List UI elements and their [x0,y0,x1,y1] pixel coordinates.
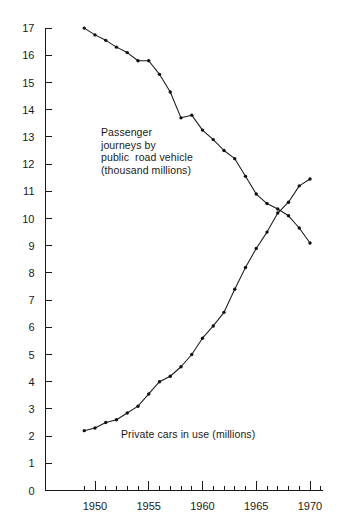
data-point-marker [169,90,172,93]
data-point-marker [265,202,268,205]
data-point-marker [233,288,236,291]
data-point-marker [265,230,268,233]
data-point-marker [147,59,150,62]
data-point-marker [158,380,161,383]
data-point-marker [212,138,215,141]
data-point-marker [83,26,86,29]
data-point-marker [115,418,118,421]
data-point-marker [287,200,290,203]
y-tick-label: 8 [28,267,34,279]
data-point-marker [190,113,193,116]
x-axis: 19501955196019651970 [46,481,323,512]
y-tick-label: 17 [22,22,34,34]
data-point-marker [287,214,290,217]
data-point-marker [190,353,193,356]
x-tick-label: 1960 [190,500,214,512]
y-tick-label: 4 [28,376,34,388]
data-point-marker [222,149,225,152]
y-tick-label: 16 [22,49,34,61]
data-point-marker [244,266,247,269]
y-tick-label: 15 [22,77,34,89]
series-line-private-cars [84,179,310,431]
x-axis-tick-labels: 19501955196019651970 [83,500,322,512]
data-point-marker [244,175,247,178]
data-series-layer [83,26,312,432]
y-tick-label: 10 [22,213,34,225]
y-tick-label: 6 [28,321,34,333]
y-tick-label: 14 [22,104,34,116]
x-tick-label: 1950 [83,500,107,512]
y-tick-label: 2 [28,430,34,442]
data-point-marker [276,207,279,210]
series-private-cars [83,177,312,432]
data-point-marker [126,411,129,414]
line-chart: 01234567891011121314151617 1950195519601… [0,0,354,528]
data-point-marker [179,116,182,119]
data-point-marker [136,404,139,407]
data-point-marker [308,241,311,244]
x-tick-label: 1965 [244,500,268,512]
series-label-passenger-journeys: Passenger journeys by public road vehicl… [101,126,193,176]
data-point-marker [308,177,311,180]
x-tick-label: 1970 [298,500,322,512]
y-tick-label: 0 [28,485,34,497]
data-point-marker [255,247,258,250]
data-point-marker [298,184,301,187]
data-point-marker [93,33,96,36]
data-point-marker [147,392,150,395]
y-tick-label: 12 [22,158,34,170]
data-point-marker [201,336,204,339]
data-point-marker [83,429,86,432]
y-tick-label: 3 [28,403,34,415]
data-point-marker [298,226,301,229]
data-point-marker [104,421,107,424]
series-label-private-cars: Private cars in use (millions) [121,428,255,441]
data-point-marker [126,51,129,54]
data-point-marker [179,365,182,368]
y-tick-label: 9 [28,240,34,252]
data-point-marker [158,73,161,76]
y-tick-label: 13 [22,131,34,143]
data-point-marker [136,59,139,62]
x-tick-label: 1955 [137,500,161,512]
y-tick-label: 11 [23,185,34,197]
data-point-marker [212,324,215,327]
data-point-marker [115,45,118,48]
data-point-marker [169,375,172,378]
y-tick-label: 5 [28,349,34,361]
y-tick-label: 1 [28,457,34,469]
chart-canvas: 01234567891011121314151617 1950195519601… [0,0,354,528]
y-axis-tick-labels: 01234567891011121314151617 [22,22,34,496]
data-point-marker [276,211,279,214]
data-point-marker [233,157,236,160]
data-point-marker [255,192,258,195]
data-point-marker [222,311,225,314]
data-point-marker [93,426,96,429]
data-point-marker [104,39,107,42]
y-axis-ticks [46,28,52,463]
data-point-marker [201,128,204,131]
y-axis: 01234567891011121314151617 [22,22,51,496]
y-tick-label: 7 [28,294,34,306]
